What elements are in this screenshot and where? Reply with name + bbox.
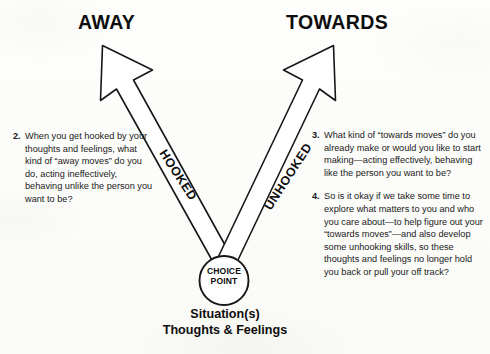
prompt-list-right: 3. What kind of “towards moves” do you a… bbox=[312, 129, 484, 279]
situation-caption-line1: Situation(s) bbox=[140, 307, 310, 323]
list-item-number: 4. bbox=[312, 190, 324, 203]
list-item-number: 3. bbox=[312, 129, 324, 142]
choice-point-label-line1: CHOICE bbox=[197, 266, 251, 276]
list-item-text: When you get hooked by your thoughts and… bbox=[25, 130, 153, 206]
list-item-text: So is it okay if we take some time to ex… bbox=[324, 190, 484, 278]
prompt-list-left: 2. When you get hooked by your thoughts … bbox=[13, 130, 153, 206]
list-item-number: 2. bbox=[13, 130, 25, 143]
list-item: 4. So is it okay if we take some time to… bbox=[312, 190, 484, 278]
situation-caption: Situation(s) Thoughts & Feelings bbox=[140, 307, 310, 338]
heading-towards: TOWARDS bbox=[286, 11, 388, 34]
list-item: 2. When you get hooked by your thoughts … bbox=[13, 130, 153, 206]
choice-point-label: CHOICE POINT bbox=[197, 266, 251, 286]
heading-away: AWAY bbox=[78, 11, 135, 34]
choice-point-label-line2: POINT bbox=[197, 276, 251, 286]
choice-point-diagram: AWAY TOWARDS HOOKED UNHOOKED CHOICE POIN… bbox=[0, 0, 490, 354]
situation-caption-line2: Thoughts & Feelings bbox=[140, 323, 310, 339]
list-item-text: What kind of “towards moves” do you alre… bbox=[324, 129, 484, 179]
list-item: 3. What kind of “towards moves” do you a… bbox=[312, 129, 484, 179]
